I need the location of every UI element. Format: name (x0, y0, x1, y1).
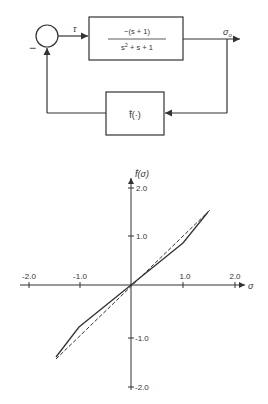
x-tick-label: 2.0 (229, 272, 241, 281)
nonlinearity-plot (20, 178, 245, 390)
y-tick-label: 1.0 (136, 232, 148, 241)
dashed-reference-line (56, 209, 211, 359)
output-sigma-label: σo (223, 27, 232, 38)
y-tick-label: -1.0 (135, 334, 149, 343)
forward-transfer-block (89, 17, 183, 60)
x-tick-label: -2.0 (22, 272, 36, 281)
numerator: −(s + 1) (124, 27, 150, 36)
x-tick-label: 1.0 (179, 272, 191, 281)
y-tick-label: 2.0 (136, 184, 148, 193)
y-tick-label: -2.0 (135, 383, 149, 392)
summing-junction (36, 25, 58, 47)
x-tick-label: -1.0 (73, 272, 87, 281)
figure: − τ −(s + 1) s2 + s + 1 σo f̂(·) f̂(σ) σ… (0, 0, 268, 404)
x-axis-label: σ (248, 281, 254, 291)
minus-sign: − (29, 41, 36, 55)
tau-label: τ (73, 24, 77, 34)
denominator: s2 + s + 1 (121, 42, 153, 52)
y-axis-label: f̂(σ) (135, 169, 149, 179)
feedback-block-label: f̂(·) (128, 110, 140, 120)
